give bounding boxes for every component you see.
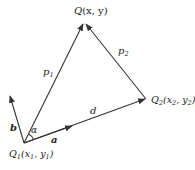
geometry-diagram: Q(x, y) Q2(x2, y2) Q1(x1, y1) p1 p2 d a …	[0, 0, 195, 170]
label-p1: p1	[43, 66, 54, 79]
vector-b-line	[10, 96, 24, 143]
label-d: d	[90, 105, 96, 116]
label-Q2: Q2(x2, y2)	[151, 94, 195, 107]
label-a: a	[51, 134, 57, 145]
vector-p2-line	[86, 24, 146, 99]
label-Q1: Q1(x1, y1)	[9, 148, 54, 161]
label-Q: Q(x, y)	[74, 5, 108, 16]
label-b: b	[10, 122, 17, 133]
label-alpha: α	[31, 125, 37, 135]
label-p2: p2	[118, 45, 129, 58]
